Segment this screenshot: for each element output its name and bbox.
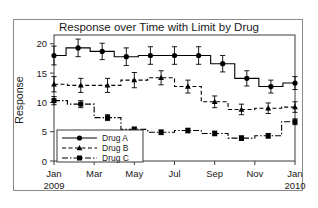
y-tick-label: 10 bbox=[36, 97, 47, 108]
data-point-circle bbox=[51, 53, 56, 58]
data-series-group bbox=[51, 39, 298, 141]
data-point-square bbox=[52, 98, 57, 103]
data-point-square bbox=[293, 119, 298, 124]
chart-legend[interactable]: Drug ADrug BDrug C bbox=[57, 130, 143, 163]
data-point-circle bbox=[292, 80, 297, 85]
x-tick-sublabel: 2010 bbox=[284, 180, 305, 191]
data-point-circle bbox=[148, 53, 153, 58]
x-tick-label: Jul bbox=[168, 168, 180, 179]
data-point-circle bbox=[76, 45, 81, 50]
chart-title: Response over Time with Limit by Drug bbox=[59, 21, 259, 33]
chart-figure: Response over Time with Limit by Drug Re… bbox=[0, 0, 318, 208]
data-point-circle bbox=[124, 54, 129, 59]
x-tick-label: Jan bbox=[287, 168, 302, 179]
data-point-circle bbox=[172, 53, 177, 58]
legend-label-drug-c: Drug C bbox=[102, 153, 129, 163]
data-point-square bbox=[159, 130, 164, 135]
data-point-circle bbox=[220, 61, 225, 66]
data-point-triangle bbox=[185, 84, 191, 89]
chart-svg: Response over Time with Limit by Drug Re… bbox=[0, 0, 318, 208]
x-tick-label: Jan bbox=[46, 168, 61, 179]
y-axis-label: Response bbox=[13, 76, 25, 123]
legend-box bbox=[57, 130, 143, 162]
legend-label-drug-b: Drug B bbox=[102, 143, 129, 153]
x-tick-label: May bbox=[125, 168, 143, 179]
data-point-square bbox=[105, 115, 110, 120]
y-axis-ticks: 05101520 bbox=[36, 38, 54, 166]
data-point-circle bbox=[100, 49, 105, 54]
x-tick-sublabel: 2009 bbox=[43, 180, 64, 191]
y-tick-label: 0 bbox=[42, 156, 47, 167]
x-tick-label: Sep bbox=[206, 168, 223, 179]
y-tick-label: 15 bbox=[36, 68, 47, 79]
data-point-square bbox=[266, 133, 271, 138]
data-point-square bbox=[78, 102, 83, 107]
legend-label-drug-a: Drug A bbox=[102, 133, 128, 143]
y-tick-label: 20 bbox=[36, 38, 47, 49]
series-drug-b bbox=[51, 71, 298, 115]
y-tick-label: 5 bbox=[42, 126, 47, 137]
data-point-circle bbox=[268, 84, 273, 89]
data-point-circle bbox=[77, 135, 82, 140]
x-tick-label: Nov bbox=[246, 168, 263, 179]
data-point-square bbox=[77, 156, 82, 161]
data-point-circle bbox=[244, 76, 249, 81]
data-point-circle bbox=[196, 53, 201, 58]
x-axis-ticks: Jan2009MarMayJulSepNovJan2010 bbox=[43, 161, 305, 191]
data-point-square bbox=[239, 136, 244, 141]
data-point-square bbox=[185, 128, 190, 133]
data-point-square bbox=[212, 131, 217, 136]
x-tick-label: Mar bbox=[86, 168, 102, 179]
